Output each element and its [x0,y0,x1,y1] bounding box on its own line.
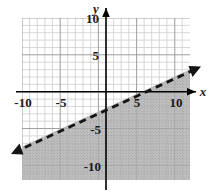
y-tick-label-5: 5 [93,48,100,63]
x-tick-label-5: 5 [134,95,141,110]
x-axis-label: x [199,84,207,99]
y-tick-label-neg5: -5 [90,122,101,137]
y-tick-label-neg10: -10 [84,159,101,174]
graph-canvas: -10 -5 5 10 10 5 -5 -10 x y [0,0,217,196]
x-tick-label-neg5: -5 [56,95,67,110]
y-axis-label: y [91,1,99,16]
y-axis-arrow-icon [102,8,110,17]
x-tick-label-neg10: -10 [14,95,31,110]
x-axis-arrow-icon [187,88,196,96]
line-arrow-start-icon [11,144,24,155]
x-tick-label-10: 10 [170,95,183,110]
coordinate-plane-figure: -10 -5 5 10 10 5 -5 -10 x y [0,0,217,196]
